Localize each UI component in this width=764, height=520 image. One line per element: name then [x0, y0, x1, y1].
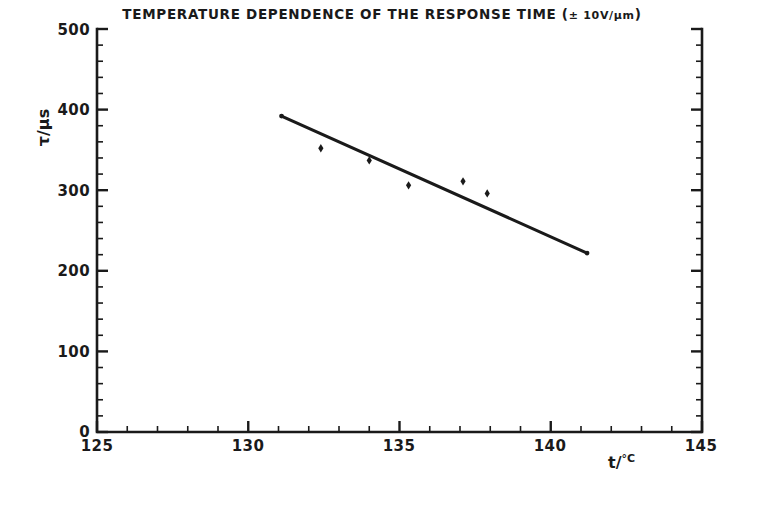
- fit-line: [279, 114, 589, 256]
- chart-figure: TEMPERATURE DEPENDENCE OF THE RESPONSE T…: [0, 0, 764, 520]
- y-axis-minor-ticks: [97, 45, 702, 416]
- y-axis-major-ticks: [97, 29, 702, 432]
- plot-area: [0, 0, 764, 520]
- axis-frame: [97, 29, 702, 432]
